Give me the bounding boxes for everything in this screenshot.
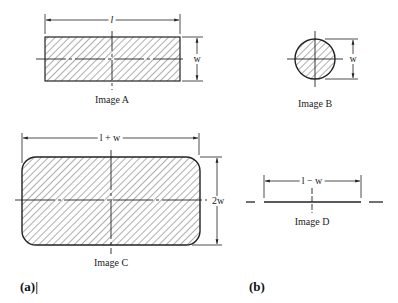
dim-label-b-vertical: w	[347, 54, 358, 64]
shape-a	[36, 14, 203, 90]
shape-c	[15, 133, 222, 254]
dim-label-c-horizontal: l + w	[98, 133, 123, 143]
panel-label-a: (a)|	[20, 280, 38, 293]
caption-image-b: Image B	[298, 99, 332, 109]
caption-image-d: Image D	[295, 217, 330, 227]
dim-label-d-horizontal: l − w	[300, 176, 325, 186]
dim-label-c-vertical: 2w	[210, 196, 226, 206]
caption-image-a: Image A	[95, 95, 129, 105]
dim-label-a-vertical: w	[191, 54, 202, 64]
panel-label-b: (b)	[249, 280, 265, 293]
caption-image-c: Image C	[94, 258, 128, 268]
dim-label-a-horizontal: l	[109, 15, 116, 25]
figure-canvas	[0, 0, 398, 303]
